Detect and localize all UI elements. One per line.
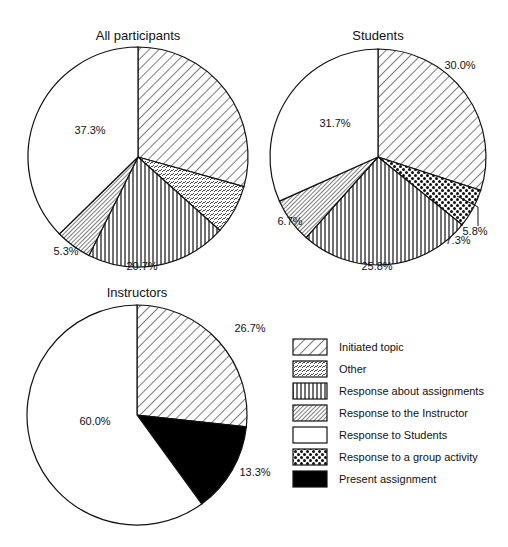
legend-swatch — [293, 471, 327, 487]
legend-item-initiated-topic: Initiated topic — [293, 339, 404, 355]
legend-swatch — [293, 339, 327, 355]
slice-value-label: 20.7% — [126, 260, 157, 272]
slice-value-label: 37.3% — [74, 124, 105, 136]
pie-instructors: Instructors26.7%13.3%60.0% — [27, 285, 271, 525]
chart-legend: Initiated topicOtherResponse about assig… — [293, 339, 484, 487]
pie-slice-initiated-topic — [137, 305, 247, 427]
legend-swatch — [293, 361, 327, 377]
legend-item-other: Other — [293, 361, 367, 377]
legend-swatch — [293, 427, 327, 443]
slice-value-label: 26.7% — [234, 322, 265, 334]
pie-title: All participants — [96, 28, 181, 43]
legend-item-response-to-the-instructor: Response to the Instructor — [293, 405, 468, 421]
legend-label: Initiated topic — [339, 341, 404, 353]
legend-label: Response to a group activity — [339, 451, 478, 463]
legend-item-response-about-assignments: Response about assignments — [293, 383, 484, 399]
pie-title: Instructors — [107, 285, 168, 300]
legend-label: Present assignment — [339, 473, 436, 485]
legend-label: Response to the Instructor — [339, 407, 468, 419]
legend-label: Response about assignments — [339, 385, 484, 397]
slice-value-label: 31.7% — [319, 117, 350, 129]
pie-title: Students — [352, 28, 404, 43]
legend-label: Response to Students — [339, 429, 448, 441]
legend-swatch — [293, 449, 327, 465]
slice-value-label: 25.8% — [361, 260, 392, 272]
slice-value-label: 13.3% — [239, 466, 270, 478]
legend-item-response-to-a-group-activity: Response to a group activity — [293, 449, 478, 465]
slice-value-label: 5.8% — [462, 225, 487, 237]
slice-value-label: 5.3% — [53, 245, 78, 257]
legend-label: Other — [339, 363, 367, 375]
legend-item-present-assignment: Present assignment — [293, 471, 436, 487]
legend-swatch — [293, 383, 327, 399]
pie-chart-figure: All participants29.3%7.3%20.7%5.3%37.3%S… — [0, 0, 508, 547]
slice-value-label: 6.7% — [277, 215, 302, 227]
slice-value-label: 30.0% — [444, 59, 475, 71]
legend-item-response-to-students: Response to Students — [293, 427, 448, 443]
slice-value-label: 60.0% — [79, 415, 110, 427]
legend-swatch — [293, 405, 327, 421]
